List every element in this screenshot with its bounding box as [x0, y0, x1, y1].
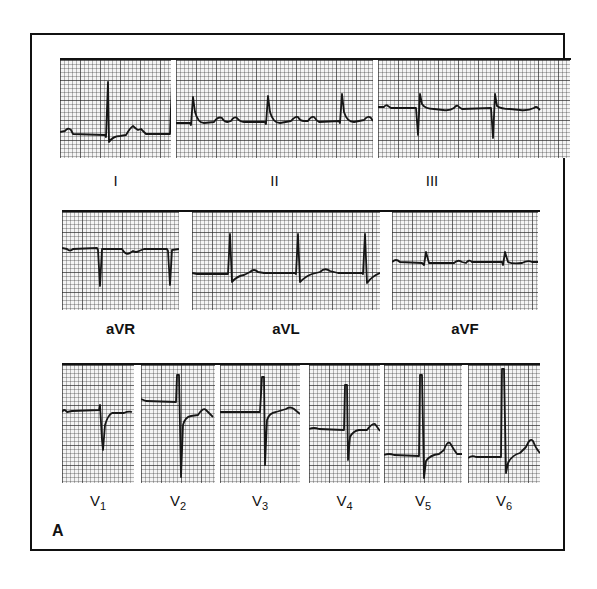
ecg-panel-lead-v6 [468, 365, 540, 483]
lead-label-v2-base: V [170, 492, 180, 509]
lead-label-avf: aVF [392, 320, 538, 337]
lead-label-v3: V3 [220, 492, 300, 512]
ecg-trace-lead-v5 [384, 365, 462, 483]
ecg-trace-lead-ii [176, 60, 373, 158]
ecg-trace-lead-v1 [62, 365, 134, 483]
lead-label-v4-base: V [336, 492, 346, 509]
lead-label-v6-sub: 6 [506, 500, 512, 512]
lead-label-v2-sub: 2 [180, 500, 186, 512]
lead-label-v2: V2 [141, 492, 215, 512]
ecg-trace-lead-avr [62, 212, 179, 310]
ecg-panel-lead-v3 [220, 365, 300, 483]
lead-label-v6: V6 [468, 492, 540, 512]
lead-label-v4-sub: 4 [346, 500, 352, 512]
lead-label-v5-sub: 5 [425, 500, 431, 512]
lead-label-v3-sub: 3 [262, 500, 268, 512]
lead-label-v1: V1 [62, 492, 134, 512]
ecg-trace-lead-avf [392, 212, 538, 310]
ecg-trace-lead-v6 [468, 365, 540, 483]
ecg-panel-lead-v1 [62, 365, 134, 483]
lead-label-v1-sub: 1 [100, 500, 106, 512]
lead-label-v3-base: V [252, 492, 262, 509]
lead-label-v6-base: V [496, 492, 506, 509]
ecg-panel-lead-avl [192, 212, 380, 310]
lead-label-v1-base: V [90, 492, 100, 509]
ecg-trace-lead-i [60, 60, 171, 158]
ecg-panel-lead-avf [392, 212, 538, 310]
ecg-trace-lead-v3 [220, 365, 300, 483]
lead-label-v4: V4 [309, 492, 380, 512]
lead-label-v5-base: V [415, 492, 425, 509]
ecg-trace-lead-avl [192, 212, 380, 310]
ecg-trace-lead-v4 [309, 365, 380, 483]
lead-label-avr: aVR [62, 320, 179, 337]
lead-label-v5: V5 [384, 492, 462, 512]
lead-label-i: I [60, 172, 171, 189]
ecg-panel-lead-i [60, 60, 171, 158]
ecg-trace-lead-iii [378, 60, 570, 158]
figure-panel-letter: A [52, 522, 64, 540]
lead-label-avl: aVL [192, 320, 380, 337]
lead-label-ii: II [176, 172, 373, 189]
ecg-panel-lead-v5 [384, 365, 462, 483]
ecg-panel-lead-v4 [309, 365, 380, 483]
ecg-panel-lead-ii [176, 60, 373, 158]
ecg-trace-lead-v2 [141, 365, 215, 483]
ecg-panel-lead-v2 [141, 365, 215, 483]
ecg-panel-lead-avr [62, 212, 179, 310]
lead-label-iii: III [378, 172, 486, 189]
ecg-panel-lead-iii [378, 60, 570, 158]
